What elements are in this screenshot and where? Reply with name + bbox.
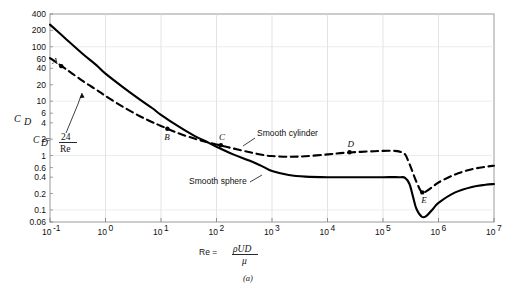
y-axis-tick-label: 6: [41, 108, 46, 118]
marker-label-b: B: [164, 132, 170, 142]
y-axis-tick-label: 0.2: [34, 189, 46, 199]
y-axis-tick-label: 40: [37, 63, 47, 73]
marker-dot-b: [165, 127, 169, 131]
y-axis-title-main: C: [14, 113, 21, 124]
x-tick-exponent: 4: [331, 223, 336, 233]
stokes-denominator: Re: [60, 144, 71, 154]
marker-label-e: E: [420, 195, 427, 205]
x-tick-mantissa: 10: [320, 227, 330, 237]
marker-dot-d: [347, 150, 351, 154]
x-axis-tick-label: 105: [375, 223, 391, 237]
y-axis-tick-label: 0.6: [34, 163, 46, 173]
x-tick-mantissa: 10: [153, 227, 163, 237]
y-axis-tick-label: 0.1: [34, 205, 46, 215]
y-axis-tick-label: 4: [41, 118, 46, 128]
marker-dot-e: [420, 190, 424, 194]
drag-coefficient-figure: 4002001006040201064210.60.40.20.10.06 10…: [0, 0, 511, 287]
x-axis-tick-label: 104: [320, 223, 336, 237]
x-tick-exponent: 7: [497, 223, 502, 233]
marker-label-d: D: [347, 139, 355, 149]
x-tick-exponent: 1: [164, 223, 169, 233]
x-tick-mantissa: 10: [431, 227, 441, 237]
stokes-cd-symbol: C: [33, 135, 40, 145]
x-tick-exponent: -1: [53, 223, 61, 233]
smooth-cylinder-label: Smooth cylinder: [257, 128, 318, 138]
x-tick-mantissa: 10: [264, 227, 274, 237]
x-axis-tick-labels: 10-1100101102103104105106107: [42, 223, 502, 237]
x-axis-tick-label: 103: [264, 223, 280, 237]
x-axis-tick-label: 107: [486, 223, 502, 237]
x-tick-mantissa: 10: [209, 227, 219, 237]
y-axis-tick-label: 20: [37, 80, 47, 90]
y-axis-title: C D: [14, 113, 32, 127]
x-axis-tick-label: 102: [209, 223, 225, 237]
y-axis-tick-labels: 4002001006040201064210.60.40.20.10.06: [29, 9, 53, 227]
x-tick-mantissa: 10: [375, 227, 385, 237]
stokes-equals: =: [45, 135, 50, 145]
x-axis-title-numerator: ρUD: [232, 244, 251, 254]
x-tick-exponent: 6: [442, 223, 447, 233]
x-tick-mantissa: 10: [42, 227, 52, 237]
x-axis-tick-label: 101: [153, 223, 169, 237]
marker-dot-c: [219, 143, 223, 147]
marker-dot-a: [59, 64, 63, 68]
y-axis-tick-label: 10: [37, 96, 47, 106]
x-tick-exponent: 2: [220, 223, 225, 233]
x-tick-exponent: 3: [275, 223, 280, 233]
x-axis-title: Re = ρUD μ: [199, 244, 258, 266]
figure-caption: (a): [243, 273, 253, 283]
chart-svg: 4002001006040201064210.60.40.20.10.06 10…: [0, 0, 511, 287]
x-axis-tick-label: 100: [98, 223, 114, 237]
x-axis-title-denominator: μ: [241, 256, 247, 266]
y-axis-tick-label: 0.4: [34, 172, 46, 182]
y-axis-tick-label: 60: [37, 54, 47, 64]
y-axis-title-subscript: D: [23, 116, 32, 127]
y-axis-tick-label: 400: [32, 9, 46, 19]
marker-label-a: A: [51, 56, 58, 66]
y-axis-tick-label: 200: [32, 25, 46, 35]
marker-label-c: C: [219, 132, 226, 142]
y-axis-tick-label: 1: [41, 151, 46, 161]
y-axis-tick-label: 100: [32, 42, 46, 52]
smooth-sphere-label: Smooth sphere: [189, 176, 247, 186]
x-tick-exponent: 0: [109, 223, 114, 233]
x-axis-tick-label: 106: [431, 223, 447, 237]
y-axis-tick-label: 0.06: [29, 217, 46, 227]
stokes-numerator: 24: [61, 132, 71, 142]
x-tick-mantissa: 10: [486, 227, 496, 237]
x-tick-mantissa: 10: [98, 227, 108, 237]
x-tick-exponent: 5: [386, 223, 391, 233]
x-axis-title-prefix: Re =: [199, 247, 217, 257]
